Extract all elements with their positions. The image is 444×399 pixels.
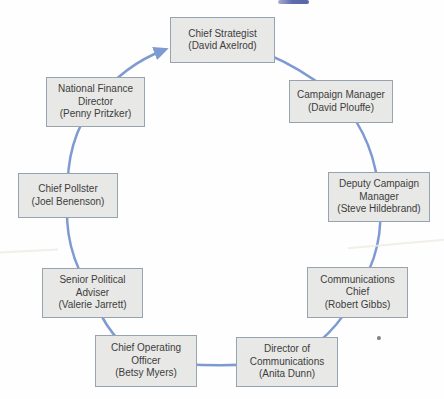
node-label: Chief Operating Officer (Betsy Myers) [111, 342, 181, 380]
node-campaign-manager: Campaign Manager (David Plouffe) [289, 80, 393, 123]
node-label: Communications Chief (Robert Gibbs) [320, 274, 394, 312]
node-label: Campaign Manager (David Plouffe) [297, 89, 385, 114]
org-chart-canvas: Chief Strategist (David Axelrod) Campaig… [0, 0, 444, 399]
scan-speck [377, 336, 381, 340]
node-label: Deputy Campaign Manager (Steve Hildebran… [337, 178, 420, 216]
node-chief-operating-officer: Chief Operating Officer (Betsy Myers) [95, 335, 197, 387]
node-national-finance-director: National Finance Director (Penny Pritzke… [46, 77, 145, 127]
node-chief-strategist: Chief Strategist (David Axelrod) [170, 17, 275, 63]
node-communications-chief: Communications Chief (Robert Gibbs) [307, 267, 408, 318]
node-label: Chief Pollster (Joel Benenson) [32, 183, 105, 208]
node-label: National Finance Director (Penny Pritzke… [58, 83, 133, 121]
node-label: Senior Political Adviser (Valerie Jarret… [58, 274, 126, 312]
node-senior-political-adviser: Senior Political Adviser (Valerie Jarret… [42, 268, 143, 318]
node-chief-pollster: Chief Pollster (Joel Benenson) [18, 173, 118, 218]
node-director-of-communications: Director of Communications (Anita Dunn) [236, 337, 338, 387]
cropped-text-fragment [278, 0, 309, 4]
node-label: Director of Communications (Anita Dunn) [250, 343, 324, 381]
node-label: Chief Strategist (David Axelrod) [188, 28, 256, 53]
node-deputy-campaign-manager: Deputy Campaign Manager (Steve Hildebran… [328, 172, 430, 222]
